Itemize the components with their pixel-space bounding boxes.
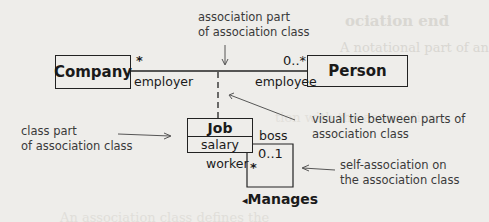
note-self-association: self-association on the association clas…	[340, 158, 459, 188]
note-association-part: association part of association class	[198, 10, 310, 40]
person-role-employee: employee	[255, 74, 317, 89]
class-company: Company	[55, 55, 131, 89]
self-assoc-role-worker: worker	[206, 156, 249, 171]
class-job: Job salary	[187, 118, 253, 153]
class-person-name: Person	[328, 62, 386, 80]
class-person: Person	[307, 55, 408, 87]
company-multiplicity: *	[136, 53, 143, 68]
class-company-name: Company	[54, 63, 132, 81]
company-role-employer: employer	[134, 74, 193, 89]
class-job-name: Job	[188, 119, 252, 137]
self-assoc-name: ◂Manages	[242, 191, 318, 207]
note-visual-tie: visual tie between parts of association …	[312, 112, 465, 142]
person-multiplicity: 0..*	[283, 53, 306, 68]
self-assoc-worker-multiplicity: *	[250, 160, 257, 175]
class-job-attribute-salary: salary	[188, 137, 252, 153]
note-class-part: class part of association class	[21, 124, 133, 154]
self-assoc-role-boss: boss	[259, 128, 288, 143]
self-assoc-boss-multiplicity: 0..1	[258, 146, 283, 161]
self-assoc-name-label: Manages	[248, 191, 319, 207]
